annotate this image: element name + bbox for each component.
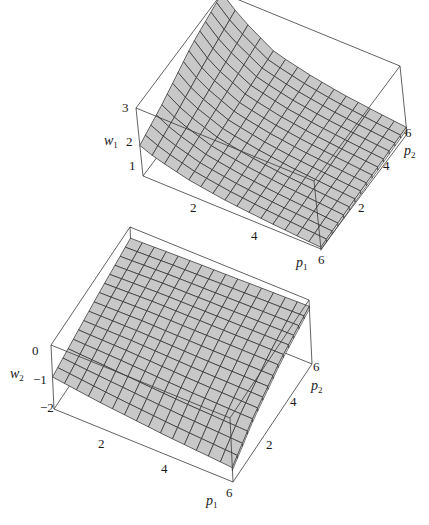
surface-mesh-w2 bbox=[53, 238, 310, 470]
x-tick-4: 4 bbox=[161, 461, 168, 476]
z-tick-2: 2 bbox=[126, 134, 133, 149]
y-tick-6: 6 bbox=[405, 125, 412, 140]
z-axis-label-w2: w2 bbox=[10, 366, 24, 383]
y-axis-label-p2: p2 bbox=[403, 143, 416, 160]
x-tick-2: 2 bbox=[190, 200, 197, 215]
z-axis-label-w1: w1 bbox=[104, 133, 118, 150]
y-tick-4: 4 bbox=[383, 158, 390, 173]
x-tick-4: 4 bbox=[251, 228, 258, 243]
y-tick-2: 2 bbox=[266, 437, 273, 452]
surface-mesh-w1 bbox=[140, 0, 407, 250]
x-axis-label-p1: p1 bbox=[205, 493, 218, 510]
y-tick-2: 2 bbox=[358, 200, 365, 215]
x-axis-label-p1: p1 bbox=[295, 255, 308, 272]
figure: 3 2 1 w1 2 4 6 p1 6 4 2 p2 0 −1 −2 w2 2 … bbox=[0, 0, 429, 525]
y-tick-6: 6 bbox=[313, 359, 320, 374]
x-tick-2: 2 bbox=[98, 436, 105, 451]
z-tick-minus2: −2 bbox=[40, 400, 54, 415]
surface-plot-w1: 3 2 1 w1 2 4 6 p1 6 4 2 p2 bbox=[104, 0, 416, 272]
y-axis-label-p2: p2 bbox=[310, 378, 323, 395]
surface-plot-w2: 0 −1 −2 w2 2 4 6 p1 6 4 2 p2 bbox=[10, 227, 323, 510]
x-tick-6: 6 bbox=[318, 252, 325, 267]
z-tick-0: 0 bbox=[32, 343, 39, 358]
z-tick-1: 1 bbox=[129, 158, 136, 173]
z-tick-minus1: −1 bbox=[33, 372, 47, 387]
x-tick-6: 6 bbox=[226, 485, 233, 500]
z-tick-3: 3 bbox=[122, 100, 129, 115]
y-tick-4: 4 bbox=[290, 394, 297, 409]
